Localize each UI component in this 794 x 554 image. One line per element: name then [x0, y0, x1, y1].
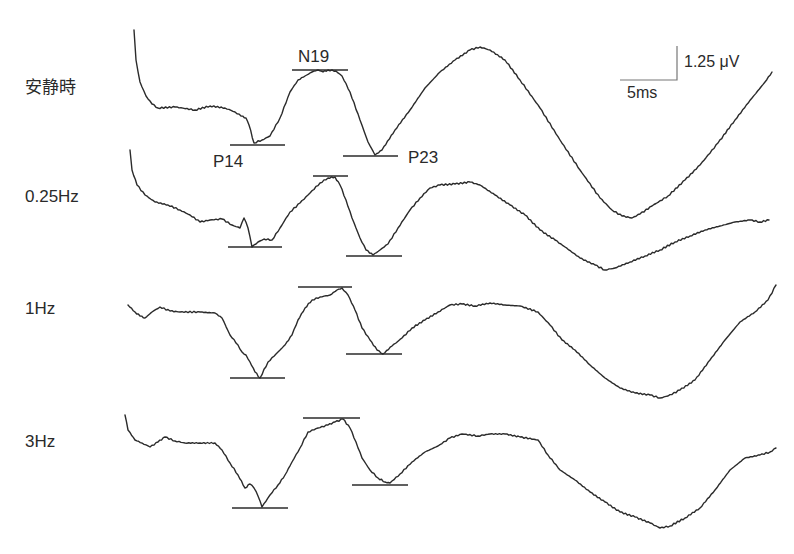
trace-3 — [128, 285, 776, 398]
peak-markers-group — [228, 70, 408, 508]
scale-label-amplitude: 1.25 μV — [684, 53, 739, 71]
peak-label-n19: N19 — [298, 47, 329, 67]
peak-label-p23: P23 — [408, 148, 438, 168]
trace-4 — [125, 415, 776, 528]
row-label-3hz: 3Hz — [25, 432, 55, 452]
scale-bar-lines — [620, 46, 677, 80]
peak-label-p14: P14 — [213, 152, 243, 172]
row-label-rest: 安静時 — [25, 73, 76, 98]
trace-1 — [134, 30, 772, 218]
row-label-0-25hz: 0.25Hz — [25, 187, 79, 207]
sep-waveform-figure: 安静時 0.25Hz 1Hz 3Hz N19 P14 P23 1.25 μV 5… — [0, 0, 794, 554]
row-label-1hz: 1Hz — [25, 299, 55, 319]
scale-bar — [620, 46, 677, 80]
traces-group — [125, 30, 776, 528]
waveform-plot — [0, 0, 794, 554]
scale-label-time: 5ms — [627, 84, 657, 102]
